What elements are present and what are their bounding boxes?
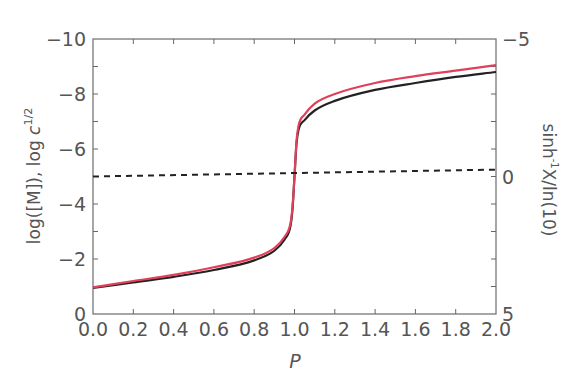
y2-axis-label-sup: -1 bbox=[549, 159, 560, 169]
y2-axis-label-rest: X/ln(10) bbox=[539, 169, 559, 237]
y2-axis-label-main: sinh bbox=[539, 124, 559, 159]
y-axis-ticks: 0−2−4−6−8−10 bbox=[46, 28, 98, 325]
x-tick-label: 1.4 bbox=[360, 318, 390, 340]
y2-tick-label: 5 bbox=[502, 303, 514, 325]
y-tick-label: −8 bbox=[58, 83, 86, 105]
y-axis-label-sup: 1/2 bbox=[22, 108, 35, 126]
x-tick-label: 0.2 bbox=[118, 318, 148, 340]
y-tick-label: −4 bbox=[58, 193, 86, 215]
x-axis-label: P bbox=[289, 350, 301, 372]
chart: 0.00.20.40.60.81.01.21.41.61.82.0 0−2−4−… bbox=[0, 0, 574, 381]
x-tick-label: 0.8 bbox=[239, 318, 269, 340]
y2-axis-ticks: 50−5 bbox=[491, 28, 530, 325]
y2-axis-label: sinh-1X/ln(10) bbox=[539, 124, 560, 237]
y-axis-label: log([M]), log c1/2 bbox=[22, 108, 44, 244]
y2-tick-label: 0 bbox=[502, 166, 514, 188]
x-tick-label: 1.0 bbox=[279, 318, 309, 340]
x-tick-label: 0.6 bbox=[199, 318, 229, 340]
y2-tick-label: −5 bbox=[502, 28, 530, 50]
y-axis-label-main: log([M]), log bbox=[24, 135, 44, 244]
x-tick-label: 1.2 bbox=[320, 318, 350, 340]
x-tick-label: 1.6 bbox=[400, 318, 430, 340]
y-tick-label: −2 bbox=[58, 248, 86, 270]
y-tick-label: −6 bbox=[58, 138, 86, 160]
series-group bbox=[93, 65, 496, 288]
x-tick-label: 1.8 bbox=[441, 318, 471, 340]
y-tick-label: 0 bbox=[74, 303, 86, 325]
x-tick-label: 0.4 bbox=[158, 318, 188, 340]
y-tick-label: −10 bbox=[46, 28, 86, 50]
